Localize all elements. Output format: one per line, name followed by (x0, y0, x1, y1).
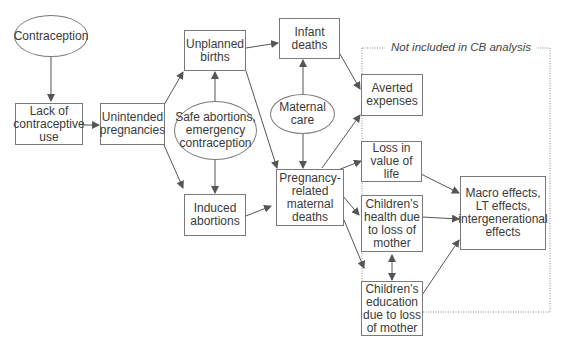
node-childrens-health: Children’s health due to loss of mother (361, 195, 423, 252)
node-safe-abortions: Safe abortions, emergency contraception (174, 101, 257, 160)
node-lack-of-contraceptive-use: Lack of contraceptive use (15, 103, 83, 145)
node-maternal-care: Maternal care (270, 94, 335, 134)
node-macro-effects: Macro effects, LT effects, intergenerati… (460, 176, 546, 250)
node-averted-expenses: Averted expenses (361, 74, 423, 116)
excluded-region-label: Not included in CB analysis (385, 41, 537, 53)
node-loss-in-value-of-life: Loss in value of life (361, 141, 422, 182)
node-unintended-pregnancies: Unintended pregnancies (100, 103, 165, 145)
node-infant-deaths: Infant deaths (279, 18, 340, 59)
node-maternal-deaths: Pregnancy- related maternal deaths (276, 169, 344, 226)
node-contraception: Contraception (14, 15, 88, 57)
node-induced-abortions: Induced abortions (184, 194, 246, 236)
node-unplanned-births: Unplanned births (184, 30, 246, 71)
node-childrens-education: Children’s education due to loss of moth… (361, 281, 423, 336)
